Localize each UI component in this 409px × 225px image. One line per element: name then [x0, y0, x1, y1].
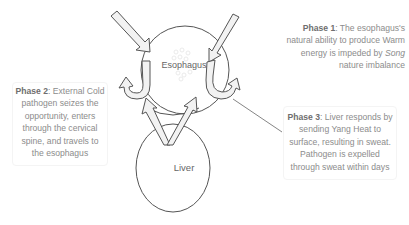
liver-label: Liver — [159, 162, 209, 173]
phase2-textbox: Phase 2: External Cold pathogen seizes t… — [12, 82, 108, 166]
phase3-textbox: Phase 3: Liver responds by sending Yang … — [283, 106, 397, 180]
esophagus-circle — [141, 26, 229, 114]
phase1-title: Phase 1 — [303, 23, 336, 33]
esophagus-label: Esophagus — [159, 60, 209, 70]
phase1-textbox: Phase 1: The esophagus's natural ability… — [284, 22, 409, 72]
hook-arrow-left-icon — [119, 61, 150, 99]
phase1-emphasis: Song — [385, 48, 405, 58]
phase2-text: : External Cold pathogen seizes the oppo… — [22, 86, 105, 158]
phase2-title: Phase 2 — [16, 86, 49, 96]
pathogen-arrow-left-icon — [111, 11, 150, 52]
phase3-title: Phase 3 — [287, 112, 320, 122]
phase1-text-post: nature imbalance — [339, 60, 405, 70]
phase3-connector-line — [233, 99, 282, 132]
